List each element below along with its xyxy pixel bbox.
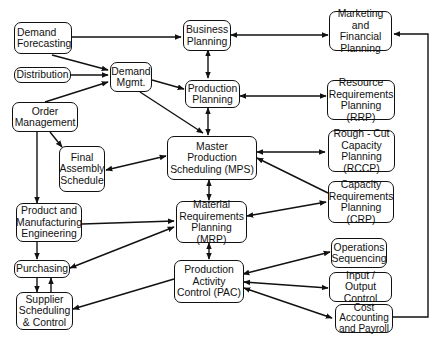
edge-final-assembly-mps bbox=[106, 156, 166, 170]
node-material-requirements-planning: Material Requirements Planning (MRP) bbox=[176, 201, 247, 243]
mrp-system-diagram: Demand Forecasting Distribution Order Ma… bbox=[0, 0, 442, 342]
node-production-activity-control: Production Activity Control (PAC) bbox=[174, 260, 244, 303]
node-operations-sequencing: Operations Sequencing bbox=[331, 238, 387, 268]
node-distribution: Distribution bbox=[14, 67, 71, 83]
edge-pac-operations bbox=[243, 252, 330, 274]
node-capacity-requirements-planning: Capacity Requirements Planning (CRP) bbox=[328, 181, 394, 223]
edge-product-engineering-mrp bbox=[82, 221, 174, 224]
edge-pac-supplier bbox=[73, 279, 174, 309]
edge-purchasing-mrp bbox=[70, 227, 174, 268]
node-rough-cut-capacity-planning: Rough - Cut Capacity Planning (RCCP) bbox=[328, 130, 395, 172]
edge-demand-mgmt-production-planning bbox=[152, 80, 184, 89]
node-order-management: Order Management bbox=[12, 102, 78, 132]
node-cost-accounting-payroll: Cost Accounting and Payroll bbox=[335, 304, 393, 333]
node-demand-forecasting: Demand Forecasting bbox=[14, 22, 72, 54]
edge-cost-accounting-marketing bbox=[393, 34, 428, 317]
node-purchasing: Purchasing bbox=[14, 260, 70, 278]
edge-crp-mps bbox=[257, 158, 328, 193]
edge-order-demand-mgmt bbox=[45, 82, 108, 102]
node-demand-mgmt: Demand Mgmt. bbox=[110, 62, 152, 92]
node-business-planning: Business Planning bbox=[183, 20, 231, 51]
node-master-production-scheduling: Master Production Scheduling (MPS) bbox=[167, 136, 257, 180]
node-marketing-financial-planning: Marketing and Financial Planning bbox=[329, 11, 392, 51]
edge-mrp-crp bbox=[247, 202, 326, 216]
node-resource-requirements-planning: Resource Requirements Planning (RRP) bbox=[327, 80, 395, 120]
node-final-assembly-schedule: Final Assembly Schedule bbox=[59, 146, 105, 192]
edge-pac-input-output bbox=[244, 282, 328, 288]
node-input-output-control: Input / Output Control bbox=[329, 272, 392, 302]
node-supplier-scheduling-control: Supplier Scheduling & Control bbox=[16, 292, 73, 330]
node-product-manufacturing-engineering: Product and Manufacturing Engineering bbox=[16, 203, 82, 242]
edge-order-final-assembly bbox=[50, 132, 62, 147]
node-production-planning: Production Planning bbox=[185, 80, 240, 108]
edge-pac-cost-accounting bbox=[244, 288, 332, 318]
